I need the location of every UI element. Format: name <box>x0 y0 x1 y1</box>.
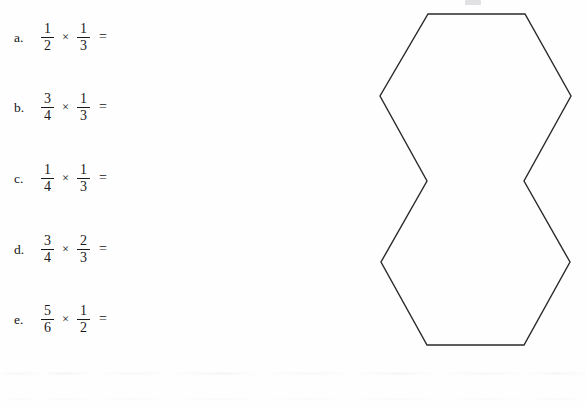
problem-label: c. <box>14 171 40 186</box>
equals-sign: = <box>96 29 107 45</box>
problem-expression: 3 4 × 2 3 = <box>40 234 112 265</box>
equals-sign: = <box>96 99 107 115</box>
scan-noise-band <box>0 398 586 400</box>
problem-row: d. 3 4 × 2 3 = <box>14 227 112 271</box>
fraction-left: 5 6 <box>40 304 55 335</box>
multiplication-operator: × <box>60 30 71 45</box>
fraction-numerator: 3 <box>42 92 53 107</box>
problem-label: a. <box>14 30 40 45</box>
fraction-right: 1 2 <box>76 304 91 335</box>
problem-label: e. <box>14 312 40 327</box>
problem-expression: 3 4 × 1 3 = <box>40 92 112 123</box>
fraction-numerator: 1 <box>78 304 89 319</box>
fraction-numerator: 1 <box>42 22 53 37</box>
fraction-denominator: 4 <box>42 179 53 194</box>
equals-sign: = <box>96 241 107 257</box>
fraction-denominator: 3 <box>78 38 89 53</box>
problem-row: c. 1 4 × 1 3 = <box>14 156 112 200</box>
fraction-denominator: 2 <box>42 38 53 53</box>
fraction-numerator: 1 <box>42 163 53 178</box>
multiplication-operator: × <box>60 312 71 327</box>
fraction-left: 1 4 <box>40 163 55 194</box>
fraction-numerator: 2 <box>78 234 89 249</box>
fraction-right: 1 3 <box>76 163 91 194</box>
fraction-denominator: 3 <box>78 179 89 194</box>
scan-noise-band <box>0 372 586 375</box>
problem-label: b. <box>14 100 40 115</box>
equals-sign: = <box>96 311 107 327</box>
fraction-denominator: 4 <box>42 250 53 265</box>
equals-sign: = <box>96 170 107 186</box>
fraction-numerator: 1 <box>78 92 89 107</box>
fraction-left: 3 4 <box>40 92 55 123</box>
problem-expression: 1 4 × 1 3 = <box>40 163 112 194</box>
fraction-left: 3 4 <box>40 234 55 265</box>
problem-row: a. 1 2 × 1 3 = <box>14 15 112 59</box>
multiplication-operator: × <box>60 100 71 115</box>
figure-panel <box>360 0 586 407</box>
fraction-right: 2 3 <box>76 234 91 265</box>
scan-artifact-mark <box>465 0 481 5</box>
problem-label: d. <box>14 242 40 257</box>
fraction-numerator: 1 <box>78 22 89 37</box>
problem-row: b. 3 4 × 1 3 = <box>14 85 112 129</box>
worksheet-page: a. 1 2 × 1 3 = b. 3 <box>0 0 586 407</box>
fraction-denominator: 3 <box>78 108 89 123</box>
problem-list: a. 1 2 × 1 3 = b. 3 <box>0 0 230 407</box>
problem-expression: 5 6 × 1 2 = <box>40 304 112 335</box>
fraction-right: 1 3 <box>76 22 91 53</box>
fraction-left: 1 2 <box>40 22 55 53</box>
fraction-denominator: 4 <box>42 108 53 123</box>
fraction-denominator: 6 <box>42 320 53 335</box>
multiplication-operator: × <box>60 171 71 186</box>
fraction-numerator: 5 <box>42 304 53 319</box>
problem-row: e. 5 6 × 1 2 = <box>14 297 112 341</box>
problem-expression: 1 2 × 1 3 = <box>40 22 112 53</box>
fraction-denominator: 3 <box>78 250 89 265</box>
fraction-numerator: 1 <box>78 163 89 178</box>
fraction-numerator: 3 <box>42 234 53 249</box>
fraction-denominator: 2 <box>78 320 89 335</box>
fraction-right: 1 3 <box>76 92 91 123</box>
multiplication-operator: × <box>60 242 71 257</box>
double-hexagon-outline <box>380 14 571 345</box>
double-hexagon-icon <box>360 0 586 380</box>
